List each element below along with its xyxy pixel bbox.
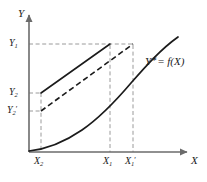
x2-subscript: 2 bbox=[40, 160, 43, 167]
dashed-chord bbox=[41, 44, 133, 111]
figure-caption bbox=[0, 173, 207, 182]
y2p-base: Y bbox=[7, 104, 13, 115]
y2-subscript: 2 bbox=[15, 91, 18, 98]
x-tick-label-x2: X2 bbox=[34, 156, 43, 166]
y1-base: Y bbox=[9, 37, 15, 48]
y-tick-label-y2: Y2 bbox=[9, 87, 18, 97]
axes-group bbox=[29, 15, 187, 152]
y2-base: Y bbox=[9, 86, 15, 97]
x1-subscript: 1 bbox=[109, 160, 112, 167]
y-tick-label-y1: Y1 bbox=[9, 38, 18, 48]
y-axis-label: Y bbox=[18, 8, 24, 19]
curve-label-rest: = f(X) bbox=[157, 55, 184, 67]
x-axis-label: X bbox=[191, 155, 198, 166]
y-tick-label-y2-prime: Y2′ bbox=[7, 105, 18, 115]
x1p-prime: ′ bbox=[134, 156, 136, 165]
y1-subscript: 1 bbox=[15, 42, 18, 49]
curve-label-star: ∗ bbox=[151, 55, 157, 63]
curve-equation-label: Y∗= f(X) bbox=[145, 56, 184, 67]
x-tick-label-x1: X1 bbox=[103, 156, 112, 166]
y2p-prime: ′ bbox=[15, 105, 17, 114]
x-tick-label-x1-prime: X1′ bbox=[125, 156, 136, 166]
figure-container: Y X Y1 Y2 Y2′ X2 X1 X1′ Y∗= f(X) bbox=[0, 0, 207, 182]
